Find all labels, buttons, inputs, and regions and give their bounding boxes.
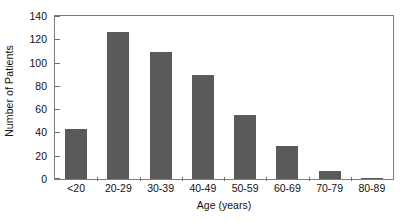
bar[interactable] <box>65 129 87 179</box>
bar-chart: Number of Patients 020406080100120140 <2… <box>0 0 404 222</box>
bar[interactable] <box>319 171 341 179</box>
bar[interactable] <box>192 75 214 179</box>
x-tick-mark <box>266 177 267 181</box>
y-tick-label: 120 <box>29 33 47 45</box>
x-tick-label: <20 <box>67 182 85 194</box>
bar-slot <box>351 16 393 179</box>
x-tick-label: 20-29 <box>105 182 132 194</box>
x-tick-label: 60-69 <box>274 182 301 194</box>
plot-inner <box>55 16 393 179</box>
y-axis-title: Number of Patients <box>0 0 18 182</box>
bar[interactable] <box>234 115 256 179</box>
x-tick-mark <box>224 177 225 181</box>
y-tick-label: 80 <box>35 80 47 92</box>
plot-area <box>54 15 394 180</box>
bar[interactable] <box>276 146 298 179</box>
x-tick-mark <box>97 177 98 181</box>
x-tick-mark <box>309 177 310 181</box>
x-axis-tick-labels: <2020-2930-3940-4950-5960-6970-7980-89 <box>54 182 394 198</box>
bar[interactable] <box>107 32 129 179</box>
y-tick-label: 20 <box>35 150 47 162</box>
y-tick-label: 100 <box>29 57 47 69</box>
bar[interactable] <box>150 52 172 179</box>
x-tick-label: 40-49 <box>189 182 216 194</box>
x-axis-title: Age (years) <box>54 199 394 211</box>
bar-slot <box>97 16 139 179</box>
bar-slot <box>266 16 308 179</box>
x-tick-label: 50-59 <box>232 182 259 194</box>
x-tick-mark <box>351 177 352 181</box>
y-tick-label: 0 <box>41 173 47 185</box>
bar-slot <box>140 16 182 179</box>
x-tick-mark <box>140 177 141 181</box>
y-tick-label: 60 <box>35 103 47 115</box>
x-tick-label: 30-39 <box>147 182 174 194</box>
x-tick-mark <box>182 177 183 181</box>
bar-slot <box>224 16 266 179</box>
x-tick-label: 70-79 <box>316 182 343 194</box>
bar-slot <box>55 16 97 179</box>
y-tick-label: 40 <box>35 126 47 138</box>
y-axis-tick-labels: 020406080100120140 <box>18 0 51 190</box>
bar-slot <box>182 16 224 179</box>
bar-slot <box>309 16 351 179</box>
x-tick-label: 80-89 <box>358 182 385 194</box>
bar[interactable] <box>361 178 383 179</box>
y-tick-label: 140 <box>29 10 47 22</box>
y-axis-title-text: Number of Patients <box>3 45 15 137</box>
